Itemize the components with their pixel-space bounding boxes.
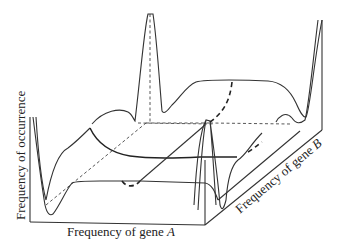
diagonal-1	[140, 125, 205, 181]
surface-diagram: Frequency of gene A Frequency of occurre…	[0, 0, 339, 248]
back-ridge	[92, 14, 322, 124]
valley-line	[90, 128, 237, 158]
z-axis-label: Frequency of occurrence	[13, 91, 28, 220]
left-inner-curve	[36, 117, 90, 200]
axes-box	[30, 20, 322, 225]
back-ridge-inner	[276, 20, 318, 123]
x-axis-label: Frequency of gene A	[67, 224, 175, 239]
dashed-curve-back	[210, 82, 232, 122]
dashed-curve-front	[122, 181, 140, 186]
front-ridge	[140, 181, 218, 200]
